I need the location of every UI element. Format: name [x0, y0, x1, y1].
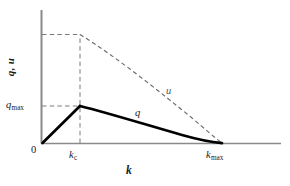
x-axis-title: k: [126, 165, 132, 177]
y-axis-title: q, u: [5, 54, 16, 80]
x-tick-kc-base: k: [69, 149, 74, 160]
x-tick-label-origin: 0: [31, 145, 36, 156]
figure-container: q, u k qmax 0 kc kmax u q: [0, 0, 290, 186]
x-tick-label-kmax: kmax: [206, 150, 223, 161]
series-q-curve-decay: [80, 106, 222, 143]
y-tick-qmax-base: q: [6, 99, 11, 110]
x-tick-label-kc: kc: [69, 150, 77, 161]
x-tick-kmax-base: k: [206, 149, 211, 160]
y-tick-qmax-subscript: max: [12, 104, 24, 112]
y-tick-label-qmax: qmax: [6, 100, 24, 111]
chart-canvas: [0, 0, 290, 186]
x-tick-kc-subscript: c: [74, 154, 77, 162]
curve-annotation-u: u: [166, 86, 171, 97]
x-tick-kmax-subscript: max: [211, 154, 223, 162]
curve-annotation-q: q: [135, 108, 140, 119]
series-q-curve: [43, 106, 81, 143]
